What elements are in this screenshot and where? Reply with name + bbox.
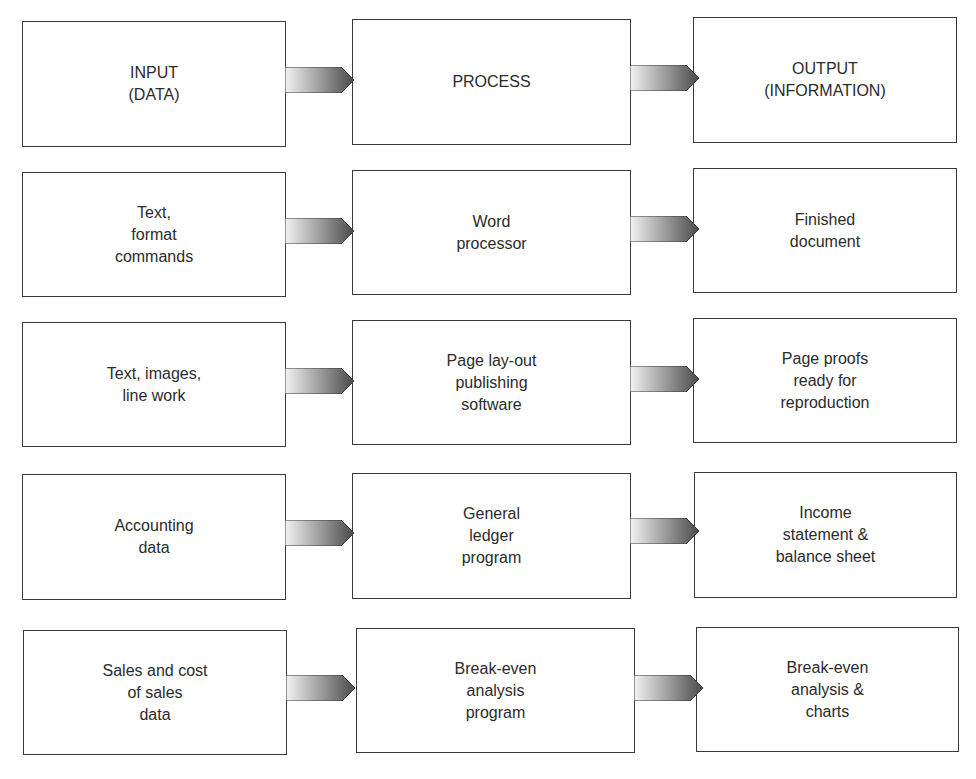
gradient-right-arrow-icon	[630, 216, 700, 242]
row-3-output-box: Page proofs ready for reproduction	[693, 318, 957, 443]
row-1-input-box: INPUT (DATA)	[22, 21, 286, 147]
row-2-input-label: Text, format commands	[115, 202, 193, 268]
row-5-process-box: Break-even analysis program	[356, 628, 635, 753]
row-5-input-label: Sales and cost of sales data	[103, 660, 208, 726]
gradient-right-arrow-icon	[285, 520, 355, 546]
row-1-process-box: PROCESS	[352, 19, 631, 145]
gradient-right-arrow-icon	[630, 518, 700, 544]
row-1-output-box: OUTPUT (INFORMATION)	[693, 17, 957, 143]
gradient-right-arrow-icon	[630, 65, 700, 91]
row-4-process-label: General ledger program	[462, 503, 522, 569]
row-5-input-box: Sales and cost of sales data	[23, 630, 287, 755]
gradient-right-arrow-icon	[286, 675, 356, 701]
row-5-output-label: Break-even analysis & charts	[787, 657, 869, 723]
row-1-input-label: INPUT (DATA)	[129, 62, 180, 106]
row-4-process-box: General ledger program	[352, 473, 631, 599]
gradient-right-arrow-icon	[285, 67, 355, 93]
row-3-process-box: Page lay-out publishing software	[352, 320, 631, 445]
row-4-input-label: Accounting data	[114, 515, 193, 559]
row-3-output-label: Page proofs ready for reproduction	[781, 348, 870, 414]
row-2-process-label: Word processor	[456, 211, 526, 255]
row-5-output-box: Break-even analysis & charts	[696, 627, 959, 752]
row-4-output-box: Income statement & balance sheet	[694, 472, 957, 598]
gradient-right-arrow-icon	[630, 366, 700, 392]
row-2-process-box: Word processor	[352, 170, 631, 295]
row-1-output-label: OUTPUT (INFORMATION)	[764, 58, 885, 102]
gradient-right-arrow-icon	[285, 368, 355, 394]
row-2-input-box: Text, format commands	[22, 172, 286, 297]
row-3-input-label: Text, images, line work	[107, 363, 201, 407]
gradient-right-arrow-icon	[285, 218, 355, 244]
row-3-process-label: Page lay-out publishing software	[447, 350, 537, 416]
gradient-right-arrow-icon	[634, 675, 704, 701]
row-4-input-box: Accounting data	[22, 474, 286, 600]
row-4-output-label: Income statement & balance sheet	[776, 502, 876, 568]
row-3-input-box: Text, images, line work	[22, 322, 286, 447]
row-2-output-box: Finished document	[693, 168, 957, 293]
row-2-output-label: Finished document	[790, 209, 860, 253]
row-1-process-label: PROCESS	[452, 71, 530, 93]
row-5-process-label: Break-even analysis program	[455, 658, 537, 724]
